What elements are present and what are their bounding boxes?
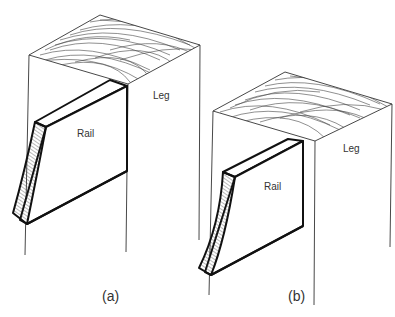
joint-diagram	[0, 0, 395, 317]
panel-a-leg-label: Leg	[153, 90, 170, 101]
panel-b-rail	[199, 139, 303, 275]
panel-a-rail	[13, 80, 127, 224]
panel-a-rail-label: Rail	[77, 128, 94, 139]
panel-b-rail-label: Rail	[264, 181, 281, 192]
panel-a-caption: (a)	[102, 288, 119, 304]
panel-b-caption: (b)	[288, 288, 305, 304]
panel-b-leg-label: Leg	[343, 143, 360, 154]
figure-canvas: Leg Rail (a) Leg Rail (b)	[0, 0, 395, 317]
panel-a-end-grain	[35, 19, 200, 82]
panel-b-end-grain	[220, 76, 390, 138]
